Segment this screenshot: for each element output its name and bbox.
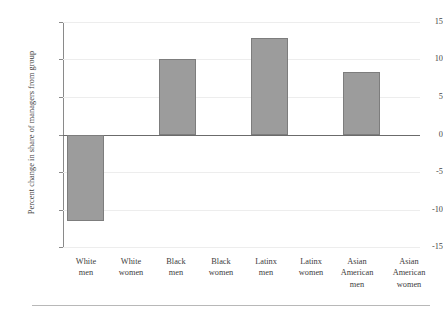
x-label-line: American — [331, 267, 383, 278]
x-label-line: women — [108, 267, 154, 278]
x-label-white-women: White women — [108, 256, 154, 279]
x-label-latinx-women: Latinx women — [288, 256, 334, 279]
x-label-black-women: Black women — [198, 256, 244, 279]
x-label-line: women — [288, 267, 334, 278]
gridline--10 — [63, 210, 420, 211]
x-label-latinx-men: Latinx men — [243, 256, 289, 279]
gridline--5 — [63, 172, 420, 173]
x-label-line: White — [63, 256, 109, 267]
x-label-line: American — [382, 267, 436, 278]
x-label-line: White — [108, 256, 154, 267]
x-label-line: Black — [153, 256, 199, 267]
plot-area — [63, 22, 420, 247]
gridline-10 — [63, 59, 420, 60]
x-label-asian-american-women: Asian American women — [382, 256, 436, 290]
bar-latinx-men — [251, 38, 288, 135]
x-label-line: Black — [198, 256, 244, 267]
bottom-divider-rule — [32, 305, 430, 306]
gridline-15 — [63, 22, 420, 23]
x-label-line: Asian — [382, 256, 436, 267]
x-label-line: Latinx — [288, 256, 334, 267]
x-label-line: men — [63, 267, 109, 278]
x-label-line: Asian — [331, 256, 383, 267]
bar-chart-figure: Percent change in share of managers from… — [0, 0, 443, 314]
x-label-black-men: Black men — [153, 256, 199, 279]
x-label-line: women — [382, 279, 436, 290]
gridline--15 — [63, 247, 420, 248]
x-label-white-men: White men — [63, 256, 109, 279]
x-label-line: Latinx — [243, 256, 289, 267]
bar-white-men — [67, 135, 104, 221]
bar-asian-american-men — [343, 72, 380, 135]
y-axis-title: Percent change in share of managers from… — [27, 8, 36, 258]
bar-black-men — [159, 59, 196, 135]
x-label-line: men — [153, 267, 199, 278]
x-label-line: men — [331, 279, 383, 290]
x-label-line: men — [243, 267, 289, 278]
zero-baseline — [63, 135, 420, 136]
x-label-asian-american-men: Asian American men — [331, 256, 383, 290]
x-label-line: women — [198, 267, 244, 278]
